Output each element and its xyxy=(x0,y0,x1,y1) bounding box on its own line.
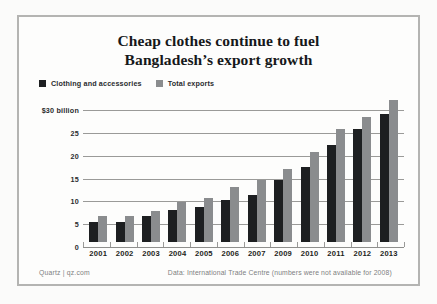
footer-credit: Quartz | qz.com xyxy=(39,269,90,276)
x-axis-label-2010: 2010 xyxy=(296,249,322,258)
chart-footer: Quartz | qz.com Data: International Trad… xyxy=(39,269,404,276)
bar-group xyxy=(244,101,270,242)
chart-screenshot: Cheap clothes continue to fuel Banglades… xyxy=(0,0,437,304)
x-axis-tick xyxy=(351,242,352,247)
x-axis-tick xyxy=(190,242,191,247)
x-axis-label-2001: 2001 xyxy=(85,249,111,258)
y-axis: $30 billion2520151050 xyxy=(39,101,83,242)
bar-clothing-2006 xyxy=(221,200,230,242)
bar-total-2010 xyxy=(310,152,319,242)
bar-total-2004 xyxy=(177,202,186,242)
bar-clothing-2003 xyxy=(142,216,151,242)
x-axis-tick xyxy=(404,242,405,247)
x-axis-label-2003: 2003 xyxy=(138,249,164,258)
footer-source: Data: International Trade Centre (number… xyxy=(168,269,392,276)
x-axis-tick xyxy=(270,242,271,247)
bar-group xyxy=(349,101,375,242)
x-axis-tick xyxy=(244,242,245,247)
x-axis-label-2006: 2006 xyxy=(217,249,243,258)
x-axis-tick xyxy=(110,242,111,247)
bar-total-2002 xyxy=(125,216,134,242)
y-axis-tick-label: 5 xyxy=(75,220,79,229)
legend-item-2: Total exports xyxy=(156,79,215,88)
axis-baseline xyxy=(83,247,404,248)
bar-group xyxy=(85,101,111,242)
bar-group xyxy=(111,101,137,242)
x-axis-label-2013: 2013 xyxy=(376,249,402,258)
y-axis-tick-label: 15 xyxy=(71,174,79,183)
square-swatch-icon xyxy=(39,80,46,87)
bar-total-2012 xyxy=(362,117,371,242)
bar-group xyxy=(376,101,402,242)
bar-clothing-2010 xyxy=(301,167,310,242)
bar-clothing-2012 xyxy=(353,129,362,242)
x-axis-tick xyxy=(324,242,325,247)
bar-clothing-2005 xyxy=(195,207,204,242)
bar-clothing-2001 xyxy=(89,222,98,242)
bar-clothing-2007 xyxy=(248,195,257,242)
x-axis-label-2005: 2005 xyxy=(191,249,217,258)
bar-groups xyxy=(83,101,404,242)
legend-label: Clothing and accessories xyxy=(51,79,142,88)
bar-group xyxy=(270,101,296,242)
plot-area: $30 billion2520151050 xyxy=(39,101,404,242)
bar-group xyxy=(323,101,349,242)
x-axis-label-2011: 2011 xyxy=(323,249,349,258)
chart-legend: Clothing and accessoriesTotal exports xyxy=(39,79,214,88)
bar-group xyxy=(138,101,164,242)
x-axis-tick xyxy=(137,242,138,247)
square-swatch-icon xyxy=(156,80,163,87)
bar-total-2001 xyxy=(98,216,107,242)
x-axis-ticks xyxy=(83,242,404,247)
y-axis-tick-label: $30 billion xyxy=(42,106,79,115)
bar-total-2006 xyxy=(230,187,239,242)
bar-total-2003 xyxy=(151,211,160,242)
x-axis-label-2009: 2009 xyxy=(270,249,296,258)
x-axis-label-2007: 2007 xyxy=(244,249,270,258)
title-line-2: Bangladesh’s export growth xyxy=(19,50,418,69)
bar-clothing-2004 xyxy=(168,210,177,242)
y-axis-tick-label: 25 xyxy=(71,128,79,137)
bar-group xyxy=(296,101,322,242)
bar-group xyxy=(164,101,190,242)
bar-clothing-2002 xyxy=(116,222,125,242)
x-axis-tick xyxy=(377,242,378,247)
y-axis-tick-label: 20 xyxy=(71,151,79,160)
bar-total-2007 xyxy=(257,180,266,242)
y-axis-tick-label: 10 xyxy=(71,197,79,206)
bar-group xyxy=(217,101,243,242)
chart-inner: Cheap clothes continue to fuel Banglades… xyxy=(19,17,418,284)
bar-clothing-2013 xyxy=(380,114,389,242)
legend-label: Total exports xyxy=(168,79,215,88)
bar-total-2013 xyxy=(389,100,398,242)
x-axis-tick xyxy=(163,242,164,247)
page-title: Cheap clothes continue to fuel Banglades… xyxy=(19,31,418,69)
y-axis-tick-label: 0 xyxy=(75,243,79,252)
chart-frame: Cheap clothes continue to fuel Banglades… xyxy=(17,15,420,286)
bar-clothing-2009 xyxy=(274,180,283,242)
bar-total-2009 xyxy=(283,169,292,242)
x-axis-label-2004: 2004 xyxy=(164,249,190,258)
x-axis-tick xyxy=(217,242,218,247)
x-axis-label-2012: 2012 xyxy=(349,249,375,258)
x-axis-tick xyxy=(83,242,84,247)
x-axis-tick xyxy=(297,242,298,247)
x-axis-labels: 2001200220032004200520062007200920102011… xyxy=(83,249,404,258)
bar-group xyxy=(191,101,217,242)
title-line-1: Cheap clothes continue to fuel xyxy=(19,31,418,50)
legend-item-1: Clothing and accessories xyxy=(39,79,142,88)
bar-total-2011 xyxy=(336,129,345,242)
bar-clothing-2011 xyxy=(327,145,336,242)
bar-total-2005 xyxy=(204,198,213,242)
x-axis-label-2002: 2002 xyxy=(111,249,137,258)
